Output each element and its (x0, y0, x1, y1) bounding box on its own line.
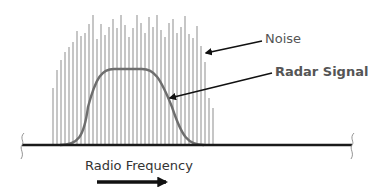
radio-frequency-label: Radio Frequency (85, 158, 193, 173)
axis-break-right-icon (351, 133, 354, 159)
radar-noise-diagram: Noise Radar Signal Radio Frequency (0, 0, 374, 194)
radar-signal-label: Radar Signal (275, 64, 368, 79)
noise-pointer-arrow (206, 41, 262, 53)
noise-label: Noise (265, 31, 301, 46)
noise-lines (53, 15, 213, 145)
